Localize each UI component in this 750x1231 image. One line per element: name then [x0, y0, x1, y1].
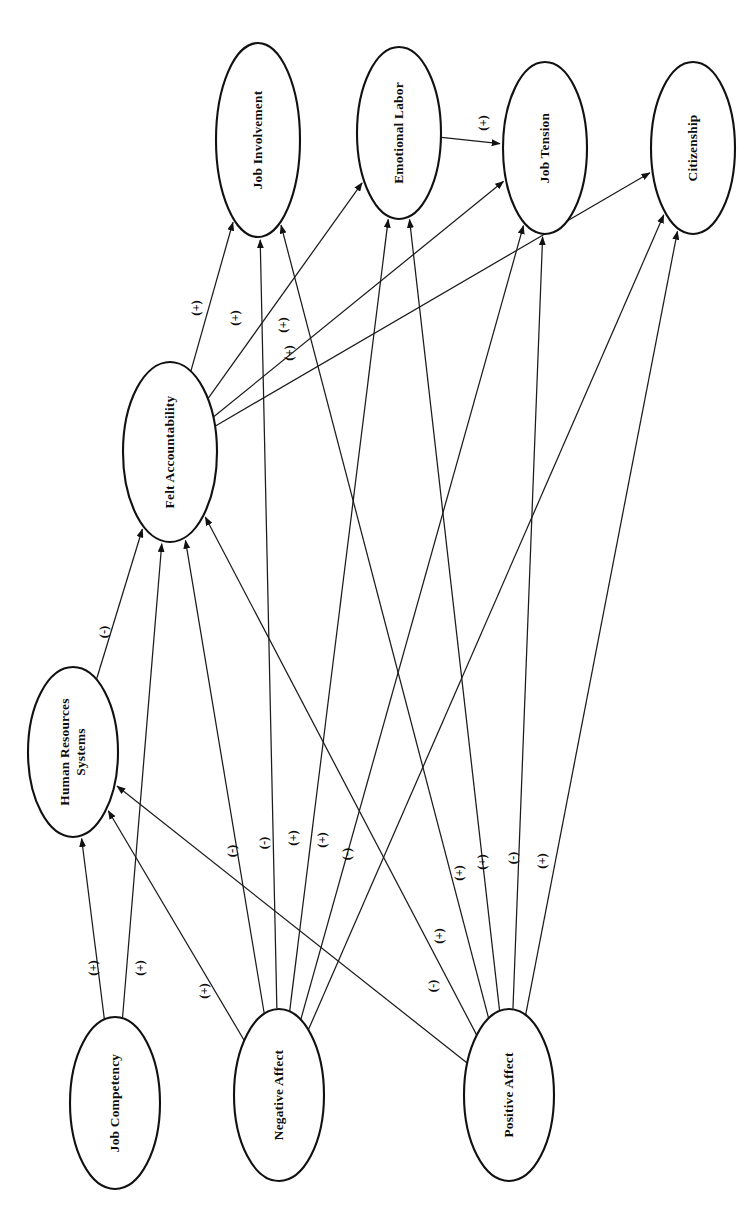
edge-sign-e-na-jt: (+) [315, 832, 330, 848]
edge-negative_affect-to-job_involvement [260, 240, 277, 1009]
edge-job_competency-to-hr_systems [82, 839, 105, 1019]
edge-hr_systems-to-felt_accountability [97, 529, 143, 679]
node-negative_affect[interactable] [234, 1009, 324, 1181]
edge-positive_affect-to-emotional_labor [410, 219, 500, 1010]
node-felt_accountability[interactable] [123, 362, 217, 542]
edge-job_competency-to-felt_accountability [123, 544, 162, 1018]
edge-sign-e-na-hr: (+) [197, 983, 212, 999]
edge-positive_affect-to-job_involvement [281, 225, 488, 1018]
diagram-canvas: Job InvolvementEmotional LaborJob Tensio… [0, 0, 750, 1231]
edges-layer [82, 137, 678, 1062]
node-positive_affect[interactable] [464, 1009, 554, 1181]
edge-negative_affect-to-job_tension [301, 226, 524, 1020]
edge-sign-e-hr-fa: (-) [97, 626, 112, 639]
edge-sign-e-pa-ji: (+) [452, 865, 467, 881]
edge-sign-e-fa-cz: (+) [282, 345, 297, 361]
edge-negative_affect-to-emotional_labor [290, 219, 389, 1011]
edge-sign-e-pa-hr: (-) [426, 980, 441, 993]
node-citizenship[interactable] [651, 62, 735, 234]
edge-positive_affect-to-job_tension [513, 237, 543, 1009]
edge-sign-e-el-jt: (+) [476, 115, 491, 131]
node-emotional_labor[interactable] [357, 47, 441, 219]
edge-positive_affect-to-citizenship [526, 231, 678, 1014]
edge-sign-e-na-el: (+) [286, 830, 301, 846]
edge-emotional_labor-to-job_tension [441, 137, 500, 143]
node-job_competency[interactable] [70, 1017, 160, 1189]
edge-felt_accountability-to-job_involvement [191, 222, 233, 371]
edge-sign-e-fa-el: (+) [228, 310, 243, 326]
edge-sign-e-na-ji: (-) [257, 837, 272, 850]
edge-sign-e-pa-fa: (+) [432, 928, 447, 944]
node-hr_systems[interactable] [28, 667, 118, 837]
path-model-svg [0, 0, 750, 1231]
edge-negative_affect-to-citizenship [309, 215, 664, 1030]
edge-sign-e-na-fa: (-) [225, 845, 240, 858]
edge-sign-e-fa-ji: (+) [189, 300, 204, 316]
edge-sign-e-na-cz: (-) [340, 848, 355, 861]
node-job_involvement[interactable] [216, 43, 300, 237]
edge-negative_affect-to-felt_accountability [185, 540, 264, 1013]
edge-sign-e-pa-jt: (-) [506, 852, 521, 865]
edge-sign-e-jc-fa: (+) [133, 960, 148, 976]
node-job_tension[interactable] [503, 62, 587, 234]
edge-sign-e-jc-hr: (+) [86, 960, 101, 976]
edge-sign-e-fa-jt: (+) [276, 317, 291, 333]
nodes-layer [28, 43, 735, 1189]
edge-sign-e-pa-cz: (+) [535, 853, 550, 869]
edge-sign-e-pa-el: (+) [475, 854, 490, 870]
